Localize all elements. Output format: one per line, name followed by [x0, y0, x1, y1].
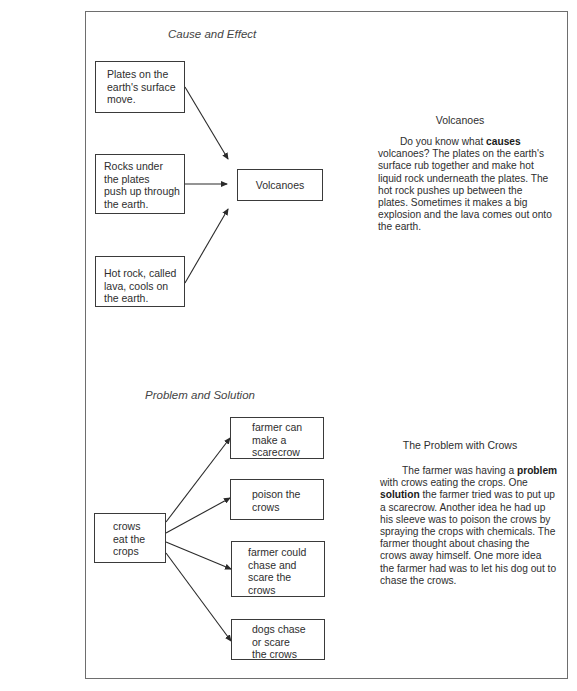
effect-text: Volcanoes [238, 179, 322, 192]
cause-effect-title: Cause and Effect [168, 28, 256, 40]
emphasis-solution: solution [380, 489, 420, 500]
solution-text: dogs chase or scare the crows [252, 623, 324, 661]
emphasis-problem: problem [517, 465, 557, 476]
cause-text: Rocks under the plates push up through t… [104, 160, 184, 210]
solution-text: poison the crows [252, 488, 323, 513]
problem-solution-title: Problem and Solution [145, 389, 255, 401]
problem-text: crows eat the crops [113, 520, 165, 558]
text-segment: the farmer tried was to put up a scarecr… [380, 489, 556, 585]
problem-box: crows eat the crops [94, 513, 166, 563]
cause-box-1: Plates on the earth's surface move. [95, 61, 185, 113]
cause-text: Plates on the earth's surface move. [107, 68, 184, 106]
cause-box-3: Hot rock, called lava, cools on the eart… [95, 256, 185, 307]
solution-box-4: dogs chase or scare the crows [231, 619, 325, 660]
cause-text: Hot rock, called lava, cools on the eart… [104, 267, 184, 305]
volcanoes-paragraph: Do you know what causes volcanoes? The p… [378, 136, 554, 234]
crows-paragraph: The farmer was having a problem with cro… [380, 465, 558, 587]
text-segment: The farmer was having a [402, 465, 517, 476]
emphasis-causes: causes [486, 136, 521, 147]
volcanoes-heading: Volcanoes [370, 114, 550, 126]
solution-text: farmer can make a scarecrow [252, 421, 323, 459]
cause-box-2: Rocks under the plates push up through t… [95, 154, 185, 214]
crows-heading: The Problem with Crows [370, 439, 550, 451]
solution-box-3: farmer could chase and scare the crows [231, 541, 325, 597]
solution-box-1: farmer can make a scarecrow [230, 417, 324, 459]
text-segment: volcanoes? The plates on the earth's sur… [378, 148, 552, 232]
effect-box: Volcanoes [237, 169, 323, 201]
solution-text: farmer could chase and scare the crows [248, 546, 324, 596]
solution-box-2: poison the crows [230, 479, 324, 520]
text-segment: Do you know what [400, 136, 486, 147]
text-segment: with crows eating the crops. One [380, 477, 528, 488]
